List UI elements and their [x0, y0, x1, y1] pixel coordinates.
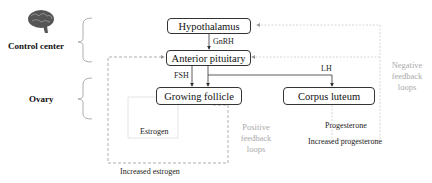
node-hypothalamus: Hypothalamus — [167, 18, 251, 34]
node-corpus-luteum: Corpus luteum — [283, 87, 375, 105]
section-control-center: Control center — [8, 41, 64, 51]
annotation-increased-estrogen: Increased estrogen — [120, 167, 180, 176]
node-anterior-pituitary: Anterior pituitary — [166, 50, 251, 66]
annotation-increased-progesterone: Increased progesterone — [308, 137, 382, 146]
edge-label-lh: LH — [321, 64, 332, 73]
brain-icon — [27, 8, 55, 34]
node-growing-follicle: Growing follicle — [156, 87, 242, 105]
edge-label-estrogen: Estrogen — [140, 127, 168, 136]
annotation-positive-feedback: Positive feedback loops — [236, 122, 276, 155]
section-ovary: Ovary — [29, 94, 54, 104]
annotation-negative-feedback: Negative feedback loops — [385, 60, 429, 93]
edge-label-gnrh: GnRH — [213, 37, 234, 46]
edge-label-fsh: FSH — [174, 71, 189, 80]
edge-label-progesterone: Progesterone — [325, 121, 367, 130]
